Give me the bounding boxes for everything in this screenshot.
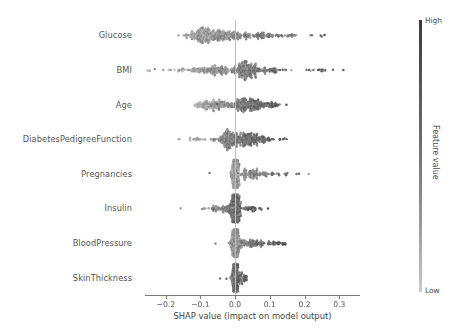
y-axis-feature-labels: GlucoseBMIAgeDiabetesPedigreeFunctionPre… [0,18,140,295]
x-tick-label-4: 0.2 [298,300,310,309]
plot-area [145,18,360,295]
colorbar-gradient [419,20,422,292]
x-tick-mark-0 [166,296,167,299]
x-axis-ticks: −0.2−0.10.00.10.20.3 [145,296,360,312]
y-tick-label-diabetespedigreefunction: DiabetesPedigreeFunction [23,134,132,144]
y-tick-label-bmi: BMI [117,65,132,75]
y-tick-label-pregnancies: Pregnancies [81,169,132,179]
colorbar-title: Feature value [431,125,440,180]
zero-reference-line [235,20,236,295]
x-axis-title: SHAP value (impact on model output) [145,311,360,321]
y-tick-label-glucose: Glucose [99,30,132,40]
beeswarm-scatter [145,18,360,295]
y-tick-label-bloodpressure: BloodPressure [73,238,132,248]
x-tick-mark-3 [270,296,271,299]
x-tick-label-1: −0.1 [191,300,209,309]
y-tick-label-age: Age [116,100,132,110]
x-tick-mark-4 [305,296,306,299]
y-tick-label-skinthickness: SkinThickness [73,273,132,283]
x-tick-label-0: −0.2 [157,300,175,309]
x-tick-label-3: 0.1 [264,300,276,309]
x-tick-label-5: 0.3 [333,300,345,309]
x-tick-mark-2 [235,296,236,299]
shap-summary-figure: GlucoseBMIAgeDiabetesPedigreeFunctionPre… [0,0,464,331]
x-tick-mark-1 [200,296,201,299]
y-tick-label-insulin: Insulin [105,203,133,213]
colorbar-low-label: Low [425,286,440,295]
colorbar-high-label: High [425,16,442,25]
x-tick-label-2: 0.0 [229,300,241,309]
x-tick-mark-5 [339,296,340,299]
